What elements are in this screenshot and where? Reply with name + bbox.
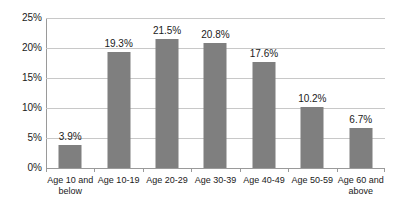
bar-chart-figure: 25% 20% 15% 10% 5% 0% 3.9% 19.3% 21.5% — [0, 0, 400, 220]
x-category-label-line1: Age 10 and — [47, 175, 93, 185]
bar-value-label: 19.3% — [104, 38, 132, 49]
x-category-label-age-40-49: Age 40-49 — [240, 175, 288, 186]
x-tick — [143, 168, 144, 172]
bar-slot-age-60-and-above: 6.7% — [337, 18, 385, 168]
x-category-label-age-10-19: Age 10-19 — [94, 175, 142, 186]
bar-slot-age-10-and-below: 3.9% — [46, 18, 94, 168]
x-category-label-age-10-and-below: Age 10 and below — [46, 175, 94, 197]
x-tick — [337, 168, 338, 172]
x-category-label-line2: below — [46, 186, 94, 197]
x-category-label-age-20-29: Age 20-29 — [143, 175, 191, 186]
bar-slot-age-10-19: 19.3% — [94, 18, 142, 168]
y-tick-label-20: 20% — [2, 43, 42, 53]
x-tick — [191, 168, 192, 172]
x-category-label-line1: Age 30-39 — [195, 175, 237, 185]
table-row[interactable] — [204, 43, 227, 168]
bar-value-label: 20.8% — [201, 29, 229, 40]
bar-value-label: 17.6% — [250, 48, 278, 59]
table-row[interactable] — [252, 62, 275, 168]
y-axis-labels: 25% 20% 15% 10% 5% 0% — [0, 0, 42, 220]
x-category-label-line2: above — [337, 186, 385, 197]
table-row[interactable] — [107, 52, 130, 168]
y-tick-label-0: 0% — [2, 163, 42, 173]
x-category-label-line1: Age 10-19 — [98, 175, 140, 185]
table-row[interactable] — [59, 145, 82, 168]
bar-slot-age-30-39: 20.8% — [191, 18, 239, 168]
y-tick-label-5: 5% — [2, 133, 42, 143]
x-axis-ticks — [46, 168, 385, 172]
x-category-label-age-50-59: Age 50-59 — [288, 175, 336, 186]
bar-slot-age-50-59: 10.2% — [288, 18, 336, 168]
y-tick-label-25: 25% — [2, 13, 42, 23]
x-tick — [288, 168, 289, 172]
bar-value-label: 6.7% — [349, 114, 372, 125]
x-tick — [46, 168, 47, 172]
bar-slot-age-20-29: 21.5% — [143, 18, 191, 168]
x-axis-category-labels: Age 10 and below Age 10-19 Age 20-29 Age… — [46, 175, 385, 207]
x-category-label-line1: Age 20-29 — [146, 175, 188, 185]
x-category-label-age-60-and-above: Age 60 and above — [337, 175, 385, 197]
bars-layer: 3.9% 19.3% 21.5% 20.8% 17.6% 10.2% 6.7% — [46, 18, 385, 168]
y-tick-label-15: 15% — [2, 73, 42, 83]
x-tick — [94, 168, 95, 172]
table-row[interactable] — [349, 128, 372, 168]
bar-value-label: 3.9% — [59, 131, 82, 142]
x-category-label-line1: Age 40-49 — [243, 175, 285, 185]
table-row[interactable] — [156, 39, 179, 168]
y-tick-label-10: 10% — [2, 103, 42, 113]
x-category-label-age-30-39: Age 30-39 — [191, 175, 239, 186]
table-row[interactable] — [301, 107, 324, 168]
x-tick — [384, 168, 385, 172]
bar-value-label: 10.2% — [298, 93, 326, 104]
x-category-label-line1: Age 60 and — [338, 175, 384, 185]
x-category-label-line1: Age 50-59 — [292, 175, 334, 185]
bar-value-label: 21.5% — [153, 25, 181, 36]
bar-slot-age-40-49: 17.6% — [240, 18, 288, 168]
x-tick — [240, 168, 241, 172]
